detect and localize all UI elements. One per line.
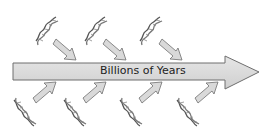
dna-above-3 — [140, 17, 162, 45]
arrow-up-2 — [83, 82, 106, 103]
arrow-up-4 — [195, 82, 218, 103]
timeline-label: Billions of Years — [100, 64, 230, 77]
dna-below-1 — [14, 98, 36, 126]
arrow-down-1 — [53, 39, 76, 60]
dna-below-2 — [64, 98, 86, 126]
dna-above-2 — [85, 17, 107, 45]
arrow-down-2 — [103, 39, 126, 60]
arrow-up-3 — [139, 82, 162, 103]
arrow-up-1 — [33, 82, 56, 103]
arrow-down-3 — [159, 39, 182, 60]
dna-below-3 — [120, 98, 142, 126]
dna-below-4 — [177, 98, 199, 126]
